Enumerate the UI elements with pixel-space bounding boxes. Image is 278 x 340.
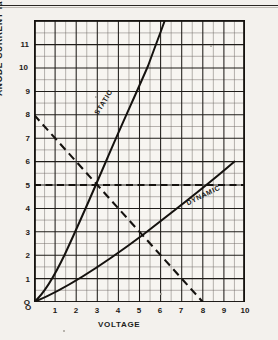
- x-tick-label: 7: [173, 306, 189, 315]
- scan-speck: [95, 96, 97, 98]
- page-top-rule: [0, 5, 278, 6]
- y-tick-label: 4: [14, 204, 30, 213]
- y-tick-label: 7: [14, 134, 30, 143]
- y-tick-label: 1: [14, 275, 30, 284]
- y-tick-label: 8: [14, 110, 30, 119]
- plot-area: [34, 20, 245, 302]
- y-tick-label: 5: [14, 181, 30, 190]
- x-axis-title: VOLTAGE: [98, 320, 140, 329]
- scan-speck: [210, 45, 212, 47]
- x-tick-label: 5: [131, 306, 147, 315]
- page-top-rule-shadow: [0, 7, 278, 8]
- y-tick-label: 2: [14, 251, 30, 260]
- x-tick-label: 1: [47, 306, 63, 315]
- y-tick-label: 10: [12, 63, 28, 72]
- y-tick-label: 11: [13, 40, 29, 49]
- scan-speck: [63, 330, 65, 332]
- x-tick-label: O: [20, 303, 36, 312]
- x-tick-label: 6: [152, 306, 168, 315]
- y-tick-label: 9: [14, 87, 30, 96]
- x-tick-label: 10: [237, 306, 253, 315]
- x-tick-label: 3: [89, 306, 105, 315]
- y-tick-label: 6: [14, 157, 30, 166]
- scanned-page: ANODE CURRENT Ia (mA) VOLTAGE O 1 2 3 4 …: [0, 0, 278, 340]
- x-tick-label: 8: [195, 306, 211, 315]
- x-tick-label: 4: [110, 306, 126, 315]
- x-tick-label: 9: [216, 306, 232, 315]
- x-tick-label: 2: [68, 306, 84, 315]
- y-axis-title: ANODE CURRENT Ia (mA): [0, 0, 4, 96]
- scan-speck: [160, 293, 162, 295]
- y-tick-label: 3: [14, 228, 30, 237]
